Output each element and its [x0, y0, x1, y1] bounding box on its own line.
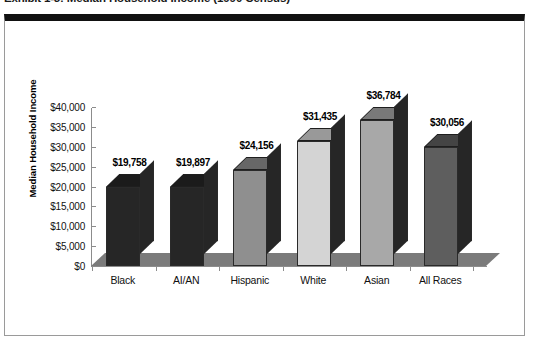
x-axis-tick-mark: [219, 267, 220, 271]
y-axis-line: [91, 108, 92, 267]
y-axis-tick-label: $30,000: [31, 141, 85, 152]
x-axis-tick-mark: [346, 267, 347, 271]
bar[interactable]: [360, 120, 394, 266]
bar-side-face: [267, 143, 281, 254]
exhibit-caption: Exhibit 1-3: Median Household Income (19…: [4, 0, 290, 6]
exhibit-number: Exhibit 1-3:: [4, 0, 64, 4]
chart-floor-left-wedge: [91, 253, 105, 266]
bar[interactable]: [170, 187, 204, 266]
bar-side-face: [140, 161, 154, 254]
bar-value-label: $19,758: [95, 157, 165, 168]
y-axis-tick-mark: [92, 107, 96, 108]
chart-figure-frame: Median Household Income $40,000$35,000$3…: [4, 14, 525, 336]
y-axis-tick-mark: [92, 246, 96, 247]
bar-side-face: [331, 115, 345, 254]
bar-value-label: $24,156: [222, 140, 292, 151]
x-axis-category-label: All Races: [397, 274, 483, 286]
x-axis-tick-mark: [92, 267, 93, 271]
bar-value-label: $36,784: [349, 90, 419, 101]
bar[interactable]: [424, 147, 458, 266]
y-axis-tick-label: $5,000: [31, 241, 85, 252]
x-axis-tick-mark: [156, 267, 157, 271]
exhibit-title: Median Household Income (1990 Census): [67, 0, 290, 4]
y-axis-tick-label: $25,000: [31, 161, 85, 172]
y-axis-tick-labels: $40,000$35,000$30,000$25,000$20,000$15,0…: [31, 21, 85, 336]
y-axis-tick-label: $35,000: [31, 121, 85, 132]
x-axis-line: [91, 266, 487, 267]
y-axis-tick-label: $15,000: [31, 201, 85, 212]
y-axis-tick-label: $0: [31, 261, 85, 272]
y-axis-tick-mark: [92, 206, 96, 207]
y-axis-tick-mark: [92, 226, 96, 227]
y-axis-tick-label: $40,000: [31, 102, 85, 113]
chart-floor-right-wedge: [486, 253, 500, 266]
bar-side-face: [458, 120, 472, 254]
y-axis-tick-label: $20,000: [31, 181, 85, 192]
x-axis-tick-mark: [410, 267, 411, 271]
bar-value-label: $19,897: [158, 157, 228, 168]
y-axis-tick-mark: [92, 147, 96, 148]
bar-chart: Median Household Income $40,000$35,000$3…: [5, 21, 526, 336]
bar-side-face: [204, 160, 218, 254]
x-axis-tick-mark: [473, 267, 474, 271]
y-axis-tick-mark: [92, 187, 96, 188]
x-axis-tick-mark: [283, 267, 284, 271]
bar[interactable]: [297, 141, 331, 266]
bar-value-label: $31,435: [285, 111, 355, 122]
bar-side-face: [394, 93, 408, 254]
bar[interactable]: [106, 187, 140, 266]
bar-value-label: $30,056: [412, 117, 482, 128]
bar[interactable]: [233, 170, 267, 266]
y-axis-tick-mark: [92, 127, 96, 128]
y-axis-tick-label: $10,000: [31, 221, 85, 232]
